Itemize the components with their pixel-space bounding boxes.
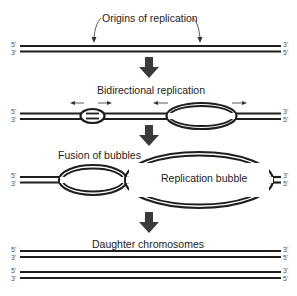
end-label: 3' xyxy=(11,49,16,56)
end-label: 3' xyxy=(283,267,288,274)
end-label: 3' xyxy=(11,275,16,282)
end-label: 5' xyxy=(11,246,16,253)
end-label: 3' xyxy=(283,41,288,48)
daughter-chromosome-1 xyxy=(20,251,281,257)
stage-origins-dna xyxy=(20,46,281,52)
end-label: 3' xyxy=(11,180,16,187)
stage-title-origins: Origins of replication xyxy=(102,12,198,24)
down-arrow-icon xyxy=(139,57,159,78)
replication-diagram xyxy=(0,0,297,296)
end-label: 5' xyxy=(283,49,288,56)
end-label: 5' xyxy=(11,172,16,179)
end-label: 5' xyxy=(11,41,16,48)
end-label: 5' xyxy=(283,275,288,282)
end-label: 5' xyxy=(283,254,288,261)
stage-title-bidirectional: Bidirectional replication xyxy=(97,84,205,96)
end-label: 5' xyxy=(283,180,288,187)
stage-title-fusion: Fusion of bubbles xyxy=(58,149,141,161)
down-arrow-icon xyxy=(139,125,159,146)
end-label: 5' xyxy=(283,116,288,123)
origin-arrowheads-icon xyxy=(92,37,203,43)
daughter-chromosome-2 xyxy=(20,272,281,278)
end-label: 3' xyxy=(283,246,288,253)
end-label: 3' xyxy=(283,108,288,115)
end-label: 3' xyxy=(11,254,16,261)
end-label: 5' xyxy=(11,267,16,274)
end-label: 3' xyxy=(283,172,288,179)
down-arrow-icon xyxy=(139,212,159,233)
stage-title-daughters: Daughter chromosomes xyxy=(92,238,204,250)
replication-bubble-label: Replication bubble xyxy=(161,172,247,184)
end-label: 3' xyxy=(11,116,16,123)
end-label: 5' xyxy=(11,108,16,115)
